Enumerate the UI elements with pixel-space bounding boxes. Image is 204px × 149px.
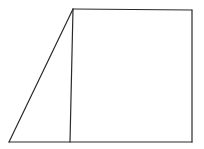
- slanted-edge: [9, 9, 73, 142]
- top-edge: [73, 9, 192, 10]
- trapezoid-diagram: [0, 0, 204, 149]
- diagram-canvas: [0, 0, 204, 149]
- dividing-edge: [70, 9, 73, 142]
